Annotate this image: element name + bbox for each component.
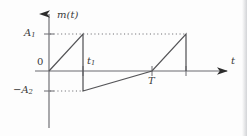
amplitude-positive-label: A1 <box>24 28 36 39</box>
amplitude-negative-label: −A2 <box>13 85 33 96</box>
period-label: T <box>148 76 155 86</box>
waveform-plot-canvas <box>0 0 247 136</box>
waveform-trace <box>49 34 186 91</box>
amplitude-negative-letter: −A <box>13 84 29 95</box>
origin-label: 0 <box>37 57 43 67</box>
time-first-subscript: 1 <box>91 59 95 67</box>
y-axis-label: m(t) <box>57 10 78 20</box>
amplitude-positive-subscript: 1 <box>31 31 35 39</box>
amplitude-negative-subscript: 2 <box>29 88 33 96</box>
time-first-label: t1 <box>87 56 95 67</box>
waveform-figure: m(t) A1 0 −A2 t1 T t <box>0 0 247 136</box>
x-axis-label: t <box>231 56 235 66</box>
